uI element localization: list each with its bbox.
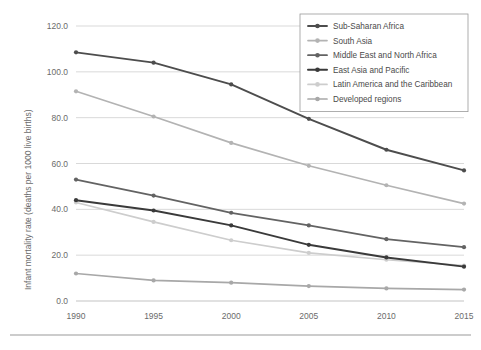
chart-legend: Sub-Saharan AfricaSouth AsiaMiddle East …	[300, 14, 468, 112]
data-point-marker	[462, 287, 466, 291]
data-point-marker	[307, 164, 311, 168]
x-tick-label: 2015	[455, 311, 474, 321]
data-point-marker	[152, 278, 156, 282]
x-tick-label: 2005	[299, 311, 318, 321]
y-axis-title: Infant mortality rate (deaths per 1000 l…	[23, 109, 33, 290]
data-point-marker	[152, 114, 156, 118]
legend-swatch-marker	[315, 97, 320, 102]
data-point-marker	[229, 281, 233, 285]
data-point-marker	[152, 208, 156, 212]
legend-label: Developed regions	[333, 95, 401, 104]
data-point-marker	[152, 61, 156, 65]
data-point-marker	[229, 82, 233, 86]
legend-label: Middle East and North Africa	[333, 51, 437, 60]
data-point-marker	[384, 237, 388, 241]
data-point-marker	[74, 198, 78, 202]
data-point-marker	[307, 251, 311, 255]
legend-swatch-marker	[315, 24, 320, 29]
data-point-marker	[74, 89, 78, 93]
series-line-4	[76, 202, 464, 265]
data-point-marker	[307, 284, 311, 288]
data-point-marker	[152, 193, 156, 197]
chart-figure: 120.0100.080.060.040.020.00.0 1990199520…	[0, 0, 481, 350]
data-point-marker	[384, 183, 388, 187]
data-point-marker	[152, 220, 156, 224]
data-point-marker	[462, 245, 466, 249]
data-point-marker	[462, 168, 466, 172]
infant-mortality-line-chart: 120.0100.080.060.040.020.00.0 1990199520…	[0, 0, 481, 350]
y-tick-label: 120.0	[47, 21, 69, 31]
x-tick-label: 2000	[222, 311, 241, 321]
x-tick-label: 2010	[377, 311, 396, 321]
data-point-marker	[229, 211, 233, 215]
x-axis-tick-labels: 199019952000200520102015	[67, 311, 474, 321]
legend-label: Latin America and the Caribbean	[333, 80, 453, 89]
legend-swatch-marker	[315, 38, 320, 43]
data-point-marker	[307, 117, 311, 121]
x-tick-label: 1990	[67, 311, 86, 321]
y-tick-label: 100.0	[47, 67, 69, 77]
data-point-marker	[74, 177, 78, 181]
data-point-marker	[462, 202, 466, 206]
legend-swatch-marker	[315, 68, 320, 73]
data-point-marker	[229, 141, 233, 145]
legend-label: Sub-Saharan Africa	[333, 22, 404, 31]
data-point-marker	[462, 265, 466, 269]
data-point-marker	[229, 223, 233, 227]
series-line-3	[76, 200, 464, 266]
data-point-marker	[384, 148, 388, 152]
y-tick-label: 80.0	[51, 113, 68, 123]
y-tick-label: 20.0	[51, 250, 68, 260]
x-tick-label: 1995	[144, 311, 163, 321]
legend-swatch-marker	[315, 53, 320, 58]
legend-label: South Asia	[333, 37, 373, 46]
legend-swatch-marker	[315, 82, 320, 87]
y-tick-label: 60.0	[51, 159, 68, 169]
data-point-marker	[307, 223, 311, 227]
data-point-marker	[307, 243, 311, 247]
y-tick-label: 0.0	[56, 296, 68, 306]
y-tick-label: 40.0	[51, 204, 68, 214]
legend-label: East Asia and Pacific	[333, 66, 409, 75]
data-point-marker	[384, 255, 388, 259]
data-point-marker	[384, 286, 388, 290]
data-point-marker	[74, 50, 78, 54]
data-point-marker	[229, 238, 233, 242]
y-axis-tick-labels: 120.0100.080.060.040.020.00.0	[47, 21, 69, 306]
series-line-5	[76, 274, 464, 290]
data-point-marker	[74, 271, 78, 275]
